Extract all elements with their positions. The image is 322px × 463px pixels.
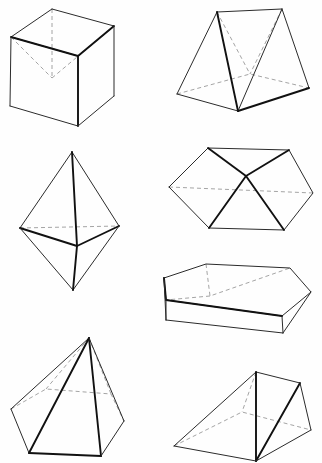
figure-background: [0, 0, 322, 463]
polyhedra-figure-canvas: [0, 0, 322, 463]
